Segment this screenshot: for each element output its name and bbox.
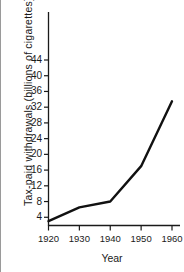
y-tick-label: 16: [20, 165, 42, 175]
x-tick-label: 1960: [157, 234, 184, 244]
x-axis-ticks: [49, 226, 173, 231]
y-tick-label: 32: [20, 102, 42, 112]
data-series-line: [49, 101, 173, 221]
y-tick-label: 20: [20, 149, 42, 159]
x-tick-label: 1950: [126, 234, 156, 244]
y-tick-label: 44: [20, 55, 42, 65]
y-tick-label: 12: [20, 181, 42, 191]
y-tick-label: 8: [20, 197, 42, 207]
y-axis-ticks: [44, 60, 49, 217]
x-tick-label: 1930: [64, 234, 94, 244]
y-axis: [44, 12, 49, 226]
y-tick-label: 28: [20, 118, 42, 128]
y-tick-label: 24: [20, 134, 42, 144]
chart-figure: Tax-paid withdrawals (billions of cigare…: [0, 0, 184, 272]
x-tick-label: 1920: [34, 234, 64, 244]
x-axis: [49, 226, 181, 231]
y-tick-label: 4: [20, 212, 42, 222]
y-tick-label: 40: [20, 71, 42, 81]
x-tick-label: 1940: [95, 234, 125, 244]
y-tick-label: 36: [20, 86, 42, 96]
